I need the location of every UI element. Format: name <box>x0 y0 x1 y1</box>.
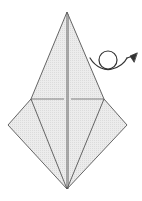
paper-outline <box>8 12 127 189</box>
origami-diagram <box>0 0 142 201</box>
turn-over-arrow-icon <box>90 51 137 70</box>
origami-figure <box>0 0 142 201</box>
